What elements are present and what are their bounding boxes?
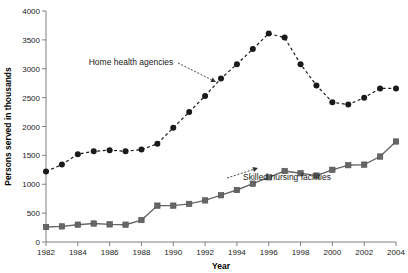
data-point bbox=[107, 147, 113, 153]
x-tick-label: 1984 bbox=[69, 248, 87, 257]
data-point bbox=[186, 201, 191, 206]
y-tick-label: 3000 bbox=[22, 65, 40, 74]
x-tick-label: 2002 bbox=[355, 248, 373, 257]
x-tick-label: 1992 bbox=[196, 248, 214, 257]
data-point bbox=[59, 224, 64, 229]
data-point bbox=[234, 61, 240, 67]
data-point bbox=[393, 85, 399, 91]
x-tick-label: 2000 bbox=[323, 248, 341, 257]
series-annotation-label: Home health agencies bbox=[89, 57, 174, 67]
x-tick-label: 1982 bbox=[37, 248, 55, 257]
data-point bbox=[313, 82, 319, 88]
data-point bbox=[154, 141, 160, 147]
x-tick-label: 1986 bbox=[101, 248, 119, 257]
data-point bbox=[393, 139, 398, 144]
data-point bbox=[202, 93, 208, 99]
data-point bbox=[218, 193, 223, 198]
data-point bbox=[123, 222, 128, 227]
data-point bbox=[107, 222, 112, 227]
data-point bbox=[59, 162, 65, 168]
data-point bbox=[282, 35, 288, 41]
data-point bbox=[345, 102, 351, 108]
y-axis-title: Persons served in thousands bbox=[3, 67, 13, 186]
data-point bbox=[250, 46, 256, 52]
y-tick-label: 2500 bbox=[22, 94, 40, 103]
y-tick-label: 4000 bbox=[22, 7, 40, 16]
x-axis-title: Year bbox=[212, 261, 231, 271]
data-point bbox=[377, 85, 383, 91]
data-point bbox=[155, 203, 160, 208]
data-point bbox=[75, 222, 80, 227]
data-point bbox=[202, 198, 207, 203]
data-point bbox=[266, 31, 272, 37]
data-point bbox=[186, 109, 192, 115]
data-point bbox=[298, 61, 304, 67]
data-point bbox=[91, 148, 97, 154]
y-tick-label: 2000 bbox=[22, 123, 40, 132]
x-tick-label: 1990 bbox=[164, 248, 182, 257]
annotation-leader-line bbox=[178, 63, 212, 80]
y-tick-label: 1500 bbox=[22, 151, 40, 160]
x-tick-label: 1994 bbox=[228, 248, 246, 257]
line-chart: 0500100015002000250030003500400019821984… bbox=[0, 0, 408, 273]
data-point bbox=[171, 203, 176, 208]
y-tick-label: 0 bbox=[36, 238, 41, 247]
data-point bbox=[138, 147, 144, 153]
series-annotation-label: Skilled nursing facilities bbox=[243, 172, 331, 182]
series-line-0 bbox=[46, 34, 396, 172]
data-point bbox=[346, 162, 351, 167]
x-tick-label: 1998 bbox=[292, 248, 310, 257]
data-point bbox=[43, 224, 48, 229]
data-point bbox=[234, 187, 239, 192]
data-point bbox=[361, 95, 367, 101]
data-point bbox=[218, 76, 224, 82]
data-point bbox=[75, 151, 81, 157]
data-point bbox=[361, 162, 366, 167]
y-tick-label: 500 bbox=[27, 209, 41, 218]
data-point bbox=[91, 221, 96, 226]
data-point bbox=[123, 148, 129, 154]
data-point bbox=[43, 169, 49, 175]
data-point bbox=[139, 217, 144, 222]
chart-container: 0500100015002000250030003500400019821984… bbox=[0, 0, 408, 273]
y-tick-label: 3500 bbox=[22, 36, 40, 45]
y-tick-label: 1000 bbox=[22, 180, 40, 189]
x-tick-label: 1996 bbox=[260, 248, 278, 257]
series-line-1 bbox=[46, 142, 396, 228]
data-point bbox=[377, 154, 382, 159]
data-point bbox=[329, 99, 335, 105]
x-tick-label: 1988 bbox=[133, 248, 151, 257]
data-point bbox=[170, 125, 176, 131]
x-tick-label: 2004 bbox=[387, 248, 405, 257]
